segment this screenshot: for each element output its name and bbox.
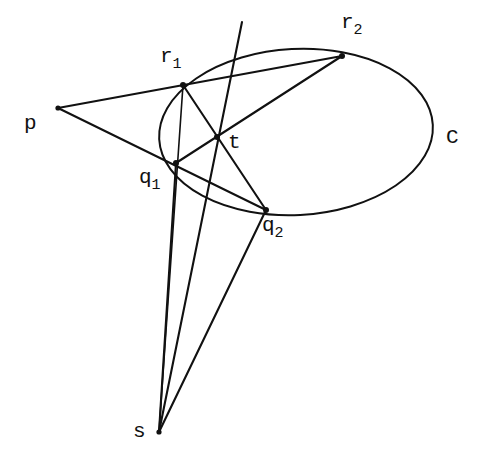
label-q1: q1 [139,167,161,188]
vertex-dot-r2 [339,53,345,59]
label-p-text: p [24,112,37,135]
label-q1-subscript: 1 [152,177,161,194]
segment-p-to-r2 [58,56,342,108]
label-t: t [228,132,241,153]
vertex-dot-q2 [263,207,269,213]
vertex-dot-t [214,134,220,140]
label-r2-text: r [341,11,354,34]
label-s-text: s [133,420,146,443]
label-r1-subscript: 1 [173,56,182,73]
label-c: C [446,127,459,148]
conic-curve-c [155,42,437,222]
vertex-dot-q1 [173,160,179,166]
vertex-dot-p [55,105,60,110]
figure-canvas [0,0,482,463]
segment-p-to-q2 [58,108,266,210]
label-r2-subscript: 2 [354,22,363,39]
label-q1-text: q [139,166,152,189]
geometry-diagram: p r1 r2 q1 q2 t s C [0,0,482,463]
label-q2: q2 [262,215,284,236]
label-q2-text: q [262,214,275,237]
label-s: s [133,421,146,442]
vertex-dot-r1 [180,82,186,88]
label-p: p [24,113,37,134]
label-c-text: C [446,126,459,149]
vertex-dot-s [156,429,161,434]
label-q2-subscript: 2 [275,225,284,242]
label-t-text: t [228,131,241,154]
label-r1: r1 [160,46,182,67]
label-r2: r2 [341,12,363,33]
label-r1-text: r [160,45,173,68]
segment-q2-to-s [159,210,266,432]
